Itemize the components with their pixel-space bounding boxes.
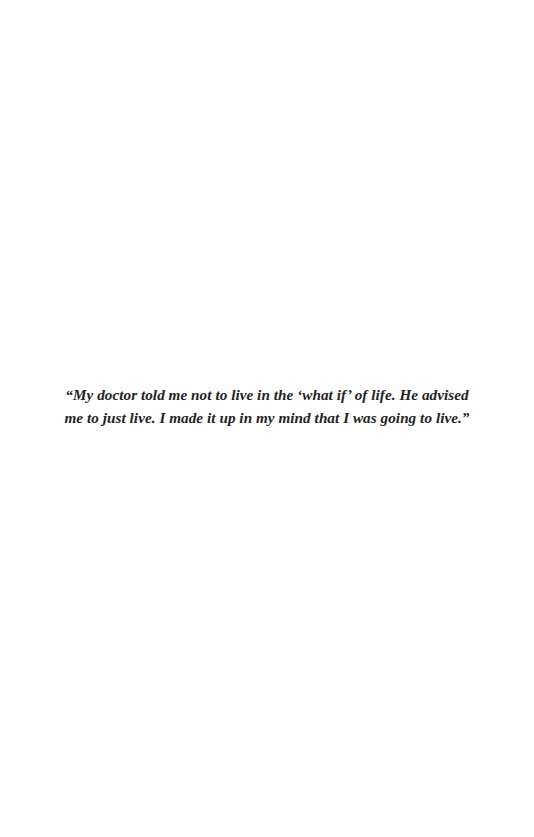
epigraph-quote: “My doctor told me not to live in the ‘w… xyxy=(0,383,534,429)
book-page: “My doctor told me not to live in the ‘w… xyxy=(0,0,534,837)
quote-line-2: me to just live. I made it up in my mind… xyxy=(0,406,534,429)
quote-line-1: “My doctor told me not to live in the ‘w… xyxy=(0,383,534,406)
